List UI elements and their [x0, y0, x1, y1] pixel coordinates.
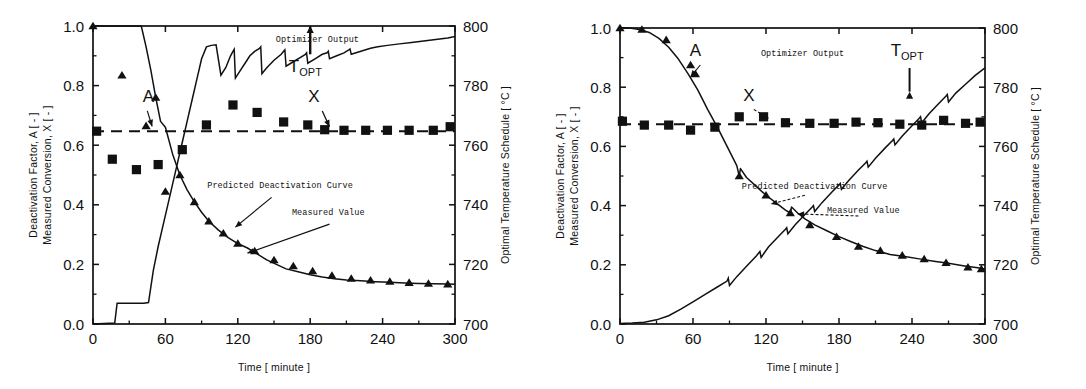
topt-subscript: OPT [901, 50, 924, 62]
measured-conversion-marker [361, 126, 370, 135]
measured-value-marker [385, 277, 394, 285]
x-axis-title: Time [ minute ] [238, 361, 310, 373]
measured-value-label: Measured Value [292, 208, 365, 218]
measured-conversion-marker [383, 126, 392, 135]
y-tick-label: 1.0 [590, 20, 611, 37]
measured-conversion-marker [640, 120, 649, 129]
measured-value-marker [405, 278, 414, 286]
measured-value-marker [366, 276, 375, 284]
optimizer-output-label: Optimizer Output [276, 35, 359, 45]
measured-conversion-marker [830, 119, 839, 128]
measured-conversion-marker [108, 155, 117, 164]
y-tick-label: 0.8 [590, 79, 611, 96]
y2-tick-label: 780 [993, 79, 1018, 96]
chart-svg-right: 0601201802403000.00.20.40.60.81.07007207… [543, 0, 1086, 389]
chart-svg-left: 0601201802403000.00.20.40.60.81.07007207… [0, 0, 543, 389]
measured-value-marker [686, 61, 695, 69]
topt-arrowhead [307, 26, 314, 33]
y-tick-label: 0.0 [590, 316, 611, 333]
measured-conversion-marker [686, 126, 695, 135]
measured-conversion-marker [92, 127, 101, 136]
measured-conversion-marker [961, 119, 970, 128]
measured-conversion-marker [320, 125, 329, 134]
x-tick-label: 0 [616, 330, 624, 347]
y-tick-label: 0.6 [590, 138, 611, 155]
plot-frame [620, 28, 985, 324]
predicted-curve-label: Predicted Deactivation Curve [742, 182, 888, 192]
measured-conversion-marker [805, 119, 814, 128]
y-tick-label: 0.6 [63, 137, 84, 154]
measured-conversion-marker [735, 112, 744, 121]
measured-value-marker [190, 198, 199, 206]
y2-axis-title: Optimal Temperature Schedule [ °C ] [499, 86, 511, 264]
measured-conversion-marker [939, 116, 948, 125]
measured-conversion-marker [710, 123, 719, 132]
measured-value-marker [735, 172, 744, 180]
measured-conversion-marker [154, 160, 163, 169]
topt-label: TOPT [891, 41, 924, 62]
x-tick-label: 120 [753, 330, 778, 347]
measured-value-marker [876, 246, 885, 254]
y-tick-label: 0.2 [63, 256, 84, 273]
y2-tick-label: 800 [463, 18, 488, 35]
topt-label: TOPT [289, 57, 322, 78]
y-tick-label: 0.0 [63, 316, 84, 333]
measured-conversion-marker [976, 118, 985, 127]
measured-conversion-marker [405, 126, 414, 135]
y-axis-title-secondary: Measured Conversion, X [ - ] [41, 105, 53, 244]
predicted-deactivation-curve [620, 28, 985, 269]
y-axis-title: Deactivation Factor, A [ - ] [554, 113, 566, 238]
measured-value-marker [161, 187, 170, 195]
x-tick-label: 240 [899, 330, 924, 347]
measured-conversion-marker [132, 165, 141, 174]
x-tick-label: 60 [685, 330, 702, 347]
series-label-X: X [308, 87, 319, 106]
y2-tick-label: 760 [463, 137, 488, 154]
topt-subscript: OPT [299, 66, 322, 78]
measured-conversion-marker [429, 126, 438, 135]
series-label-A: A [690, 41, 702, 60]
y-axis-title: Deactivation Factor, A [ - ] [27, 112, 39, 237]
measured-conversion-marker [618, 117, 627, 126]
measured-conversion-marker [446, 122, 455, 131]
measured-conversion-marker [339, 126, 348, 135]
y2-tick-label: 740 [463, 196, 488, 213]
chart-panel-right: 0601201802403000.00.20.40.60.81.07007207… [543, 0, 1086, 389]
plot-frame [93, 26, 455, 324]
y2-tick-label: 740 [993, 197, 1018, 214]
plot-group: 0601201802403000.00.20.40.60.81.07007207… [27, 18, 511, 374]
measured-value-marker [308, 267, 317, 275]
y2-tick-label: 760 [993, 138, 1018, 155]
annotation-leader-0 [235, 197, 271, 227]
measured-value-marker [662, 36, 671, 44]
optimizer-output-curve [93, 36, 455, 324]
x-tick-label: 300 [442, 330, 467, 347]
measured-value-marker [233, 239, 242, 247]
x-tick-label: 300 [972, 330, 997, 347]
y2-tick-label: 700 [993, 316, 1018, 333]
topt-main: T [891, 41, 901, 60]
measured-conversion-marker [895, 120, 904, 129]
x-axis-title: Time [ minute ] [766, 361, 838, 373]
y-tick-label: 0.4 [63, 196, 84, 213]
measured-value-marker [269, 256, 278, 264]
measured-conversion-marker [253, 108, 262, 117]
measured-value-marker [327, 271, 336, 279]
chart-panel-left: 0601201802403000.00.20.40.60.81.07007207… [0, 0, 543, 389]
measured-value-marker [289, 262, 298, 270]
measured-conversion-marker [851, 118, 860, 127]
measured-value-marker [347, 274, 356, 282]
measured-conversion-marker [873, 118, 882, 127]
y2-tick-label: 720 [993, 256, 1018, 273]
y2-tick-label: 720 [463, 256, 488, 273]
y-tick-label: 0.4 [590, 197, 611, 214]
plot-group: 0601201802403000.00.20.40.60.81.07007207… [554, 20, 1041, 374]
y2-tick-label: 800 [993, 20, 1018, 37]
series-label-A: A [143, 87, 155, 106]
measured-conversion-marker [781, 118, 790, 127]
measured-conversion-marker [228, 100, 237, 109]
y2-tick-label: 780 [463, 77, 488, 94]
y2-axis-title: Optimal Temperature Schedule [ °C ] [1029, 87, 1041, 265]
measured-conversion-marker [664, 120, 673, 129]
y2-tick-label: 700 [463, 316, 488, 333]
